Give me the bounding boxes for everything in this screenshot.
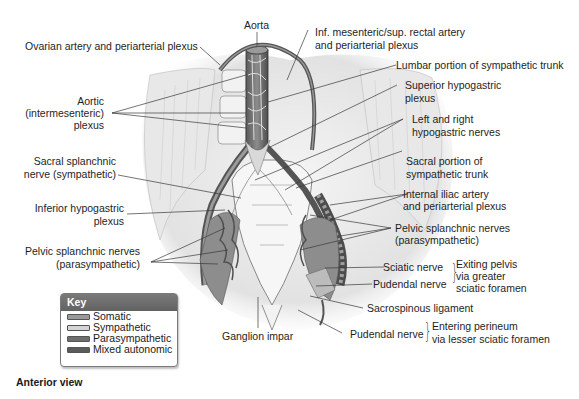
label-exiting-line2: via greater [456, 270, 506, 282]
figure-caption: Anterior view [16, 376, 83, 388]
legend-swatch [67, 325, 90, 331]
label-sup-hypogastric-line2: plexus [405, 92, 435, 104]
label-sacral-portion-line1: Sacral portion of [406, 155, 482, 167]
legend-title: Key [61, 294, 177, 311]
label-inf-hypogastric-line1: Inferior hypogastric [10, 202, 124, 214]
label-pudendal-nerve-lesser: Pudendal nerve [350, 328, 424, 340]
label-sacral-portion-line2: sympathetic trunk [406, 168, 488, 180]
pelvic-autonomic-nerves-figure: Aorta Ovarian artery and periarterial pl… [0, 0, 579, 399]
label-exiting-line3: sciatic foramen [456, 282, 527, 294]
label-aortic-line1: Aortic [30, 95, 104, 107]
label-sacrospinous-ligament: Sacrospinous ligament [367, 302, 473, 314]
label-pelvic-splanchnic-right-line2: (parasympathetic) [395, 234, 479, 246]
label-aortic-line3: plexus [30, 119, 104, 131]
legend-item-mixed-autonomic: Mixed autonomic [67, 344, 177, 355]
label-entering-line2: via lesser sciatic foramen [432, 333, 550, 345]
label-lumbar-sympathetic-trunk: Lumbar portion of sympathetic trunk [396, 59, 564, 71]
label-aortic-line2: (intermesenteric) [20, 107, 104, 119]
label-exiting-line1: Exiting pelvis [456, 258, 517, 270]
label-sacral-splanchnic-line1: Sacral splanchnic [10, 155, 116, 167]
label-lr-hypogastric-line2: hypogastric nerves [412, 126, 500, 138]
label-sciatic-nerve: Sciatic nerve [383, 261, 443, 273]
label-pudendal-nerve-greater: Pudendal nerve [373, 278, 447, 290]
aorta [246, 50, 268, 150]
label-pelvic-splanchnic-right-line1: Pelvic splanchnic nerves [395, 222, 510, 234]
label-inf-mesenteric-line1: Inf. mesenteric/sup. rectal artery [315, 26, 465, 38]
label-aorta: Aorta [244, 19, 269, 31]
label-pelvic-splanchnic-left-line1: Pelvic splanchnic nerves [10, 245, 140, 257]
brace-entering-perineum: } [424, 320, 432, 342]
label-pelvic-splanchnic-left-line2: (parasympathetic) [10, 258, 140, 270]
lumbar-vertebrae [218, 70, 246, 144]
legend-swatch [67, 347, 90, 353]
label-inf-mesenteric-line2: and periarterial plexus [315, 39, 418, 51]
label-lr-hypogastric-line1: Left and right [412, 113, 473, 125]
label-internal-iliac-line2: and periarterial plexus [403, 200, 506, 212]
legend-swatch [67, 314, 90, 320]
label-ganglion-impar: Ganglion impar [222, 330, 293, 342]
label-inf-hypogastric-line2: plexus [10, 215, 124, 227]
legend-key: Key Somatic Sympathetic Parasympathetic … [60, 293, 178, 367]
legend-swatch [67, 336, 90, 342]
label-ovarian-artery: Ovarian artery and periarterial plexus [25, 40, 198, 52]
label-entering-line1: Entering perineum [432, 320, 518, 332]
legend-label: Mixed autonomic [93, 344, 172, 355]
label-sacral-splanchnic-line2: nerve (sympathetic) [10, 168, 116, 180]
label-internal-iliac-line1: Internal iliac artery [403, 188, 489, 200]
label-sup-hypogastric-line1: Superior hypogastric [405, 79, 501, 91]
